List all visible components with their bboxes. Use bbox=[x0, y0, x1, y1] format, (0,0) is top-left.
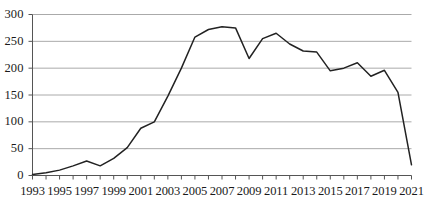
y-axis-tick-label: 300 bbox=[0, 8, 24, 21]
y-axis-tick-label: 0 bbox=[0, 169, 24, 182]
y-axis-tick-label: 50 bbox=[0, 142, 24, 155]
y-axis-tick-label: 250 bbox=[0, 35, 24, 48]
data-series-line bbox=[33, 27, 412, 175]
x-axis-ticks bbox=[33, 176, 412, 180]
gridlines bbox=[33, 15, 412, 149]
y-axis-tick-label: 150 bbox=[0, 89, 24, 102]
y-axis-tick-label: 200 bbox=[0, 62, 24, 75]
y-axis-tick-label: 100 bbox=[0, 115, 24, 128]
x-axis-tick-label: 2021 bbox=[395, 185, 428, 198]
y-axis-ticks bbox=[29, 15, 33, 176]
